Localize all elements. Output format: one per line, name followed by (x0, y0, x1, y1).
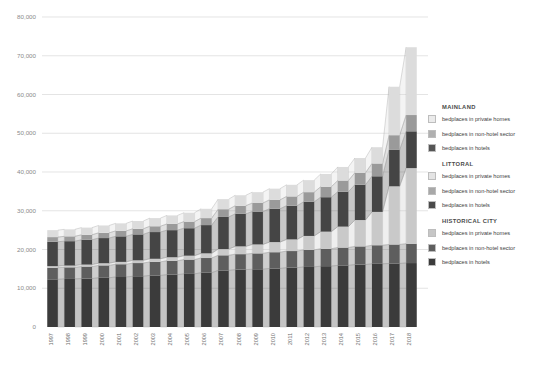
legend-item[interactable]: bedplaces in non-hotel sector (428, 187, 547, 195)
y-axis-tick-label: 80,000 (17, 13, 36, 20)
y-axis-tick-label: 10,000 (17, 284, 36, 291)
series-connector-band (400, 244, 407, 264)
bar-segment (389, 244, 400, 263)
bar-segment (47, 266, 58, 268)
bar-segment (304, 192, 315, 202)
bar-segment (406, 47, 417, 115)
series-connector-band (160, 230, 166, 259)
series-connector-band (297, 267, 303, 327)
bar-segment (184, 260, 195, 274)
legend-item[interactable]: bedplaces in hotels (428, 258, 547, 266)
series-connector-band (143, 262, 149, 276)
legend-item[interactable]: bedplaces in private homes (428, 172, 547, 180)
series-connector-band (314, 266, 320, 327)
bar-segment (355, 158, 366, 173)
series-connector-band (160, 275, 166, 327)
bar-segment (64, 241, 75, 265)
bar-segment (252, 212, 263, 245)
series-connector-band (246, 253, 253, 269)
series-connector-band (58, 267, 64, 279)
bar-segment (133, 221, 144, 229)
bar-segment (389, 87, 400, 135)
series-connector-band (280, 251, 286, 268)
bar-segment (133, 263, 144, 276)
bar-segment (47, 237, 58, 242)
bar-segment (47, 230, 58, 237)
x-axis-tick-label: 2002 (133, 333, 139, 345)
bar-segment (64, 279, 75, 327)
legend-item-label: bedplaces in non-hotel sector (442, 245, 515, 251)
bar-segment (287, 196, 298, 205)
series-connector-band (58, 229, 64, 237)
series-connector-band (365, 245, 371, 264)
bar-segment (389, 150, 400, 186)
bar-segment (269, 268, 280, 327)
series-connector-band (263, 252, 270, 269)
bar-segment (99, 278, 110, 327)
bar-segment (269, 209, 280, 242)
legend-group-title: HISTORICAL CITY (442, 218, 547, 224)
series-connector-band (297, 250, 303, 268)
legend-group-title: LITTORAL (442, 161, 547, 167)
legend-item-label: bedplaces in hotels (442, 202, 490, 208)
bar-segment (372, 176, 383, 212)
bar-segment (167, 230, 178, 257)
bar-segment (184, 222, 195, 229)
legend-item[interactable]: bedplaces in hotels (428, 201, 547, 209)
series-connector-band (246, 212, 253, 247)
x-axis-tick-label: 2000 (99, 333, 105, 345)
x-axis-tick-label: 2017 (389, 333, 395, 345)
bar-segment (99, 263, 110, 265)
series-connector-band (195, 258, 202, 274)
bar-segment (338, 181, 349, 192)
bar-segment (64, 266, 75, 268)
legend-item[interactable]: bedplaces in hotels (428, 144, 547, 152)
bar-segment (116, 262, 127, 264)
bar-segment (184, 274, 195, 327)
x-axis-tick-label: 2005 (184, 333, 190, 345)
legend-item[interactable]: bedplaces in non-hotel sector (428, 244, 547, 252)
bar-segment (64, 229, 75, 236)
bar-segment (321, 249, 332, 266)
bar-segment (269, 242, 280, 252)
x-axis-tick-label: 2009 (253, 333, 259, 345)
legend-item[interactable]: bedplaces in non-hotel sector (428, 130, 547, 138)
bar-segment (372, 212, 383, 245)
legend-item[interactable]: bedplaces in private homes (428, 229, 547, 237)
x-axis-tick-label: 2004 (167, 333, 173, 345)
bar-segment (269, 200, 280, 209)
bar-segment (184, 213, 195, 222)
x-axis-tick-label: 2006 (201, 333, 207, 345)
bar-segment (64, 267, 75, 279)
bar-segment (287, 185, 298, 197)
x-axis-tick-label: 2008 (236, 333, 242, 345)
bar-segment (372, 245, 383, 264)
bar-segment (133, 276, 144, 327)
bar-segment (252, 244, 263, 253)
bar-segment (99, 265, 110, 277)
bar-segment (167, 215, 178, 224)
legend-item[interactable]: bedplaces in private homes (428, 115, 547, 123)
chart-legend: MAINLANDbedplaces in private homesbedpla… (428, 104, 547, 275)
series-connector-band (75, 267, 82, 279)
bar-segment (201, 209, 212, 218)
bar-segment (389, 135, 400, 150)
bar-segment (321, 174, 332, 187)
series-connector-band (75, 228, 82, 237)
x-axis-tick-label: 2015 (355, 333, 361, 345)
series-connector-band (348, 265, 354, 327)
series-connector-band (177, 228, 183, 257)
legend-swatch-icon (428, 130, 436, 138)
bar-segment (235, 195, 246, 205)
bar-segment (116, 264, 127, 277)
bar-segment (116, 236, 127, 262)
bar-segment (201, 253, 212, 258)
bar-segment (372, 147, 383, 163)
legend-swatch-icon (428, 244, 436, 252)
series-connector-band (58, 279, 64, 327)
bar-segment (406, 115, 417, 131)
bar-segment (321, 266, 332, 327)
series-connector-band (365, 264, 371, 327)
bar-segment (167, 275, 178, 327)
x-axis-tick-label: 2010 (270, 333, 276, 345)
